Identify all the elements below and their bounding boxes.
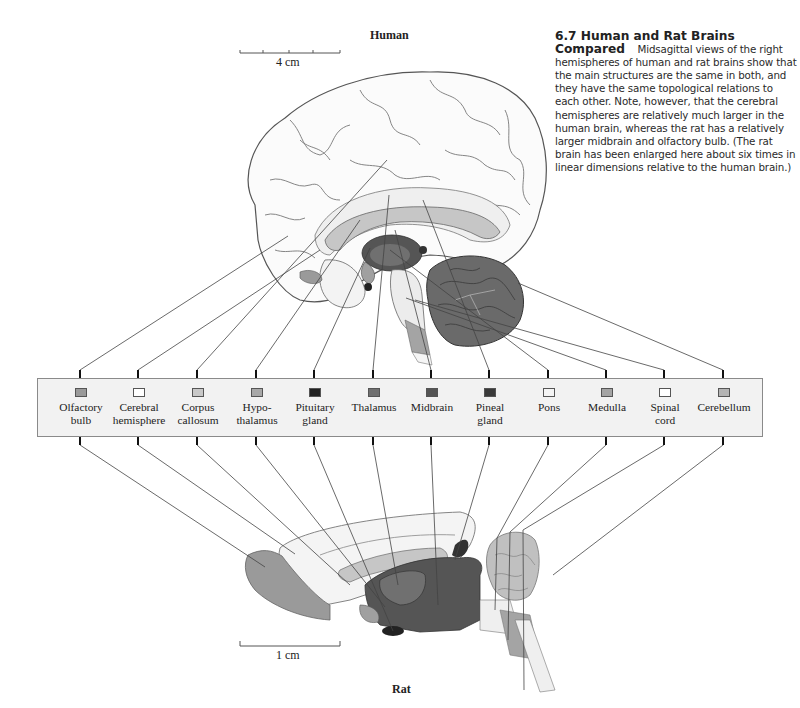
- swatch-icon: [192, 388, 204, 397]
- swatch-icon: [601, 388, 613, 397]
- swatch-icon: [251, 388, 263, 397]
- structure-legend: Olfactory bulb Cerebral hemisphere Corpu…: [37, 378, 763, 437]
- rat-label: Rat: [392, 682, 411, 697]
- rat-scale-bar: [240, 641, 340, 646]
- figure-caption: 6.7 Human and Rat Brains Compared Midsag…: [555, 30, 800, 174]
- swatch-icon: [543, 388, 555, 397]
- caption-title-line2: Compared: [555, 42, 625, 56]
- swatch-icon: [484, 388, 496, 397]
- human-scale-bar: [240, 50, 340, 53]
- swatch-icon: [426, 388, 438, 397]
- swatch-icon: [368, 388, 380, 397]
- legend-top-ticks: [80, 370, 723, 378]
- caption-text: Midsagittal views of the right hemispher…: [555, 43, 797, 173]
- rat-scale-label: 1 cm: [276, 648, 300, 663]
- swatch-icon: [309, 388, 321, 397]
- swatch-icon: [718, 388, 730, 397]
- human-scale-label: 4 cm: [276, 55, 300, 70]
- legend-bottom-ticks: [80, 437, 723, 445]
- swatch-icon: [75, 388, 87, 397]
- human-label: Human: [370, 28, 409, 43]
- human-brain-illustration: [248, 72, 546, 365]
- swatch-icon: [659, 388, 671, 397]
- swatch-icon: [133, 388, 145, 397]
- legend-item-cerebellum: Cerebellum: [689, 379, 759, 414]
